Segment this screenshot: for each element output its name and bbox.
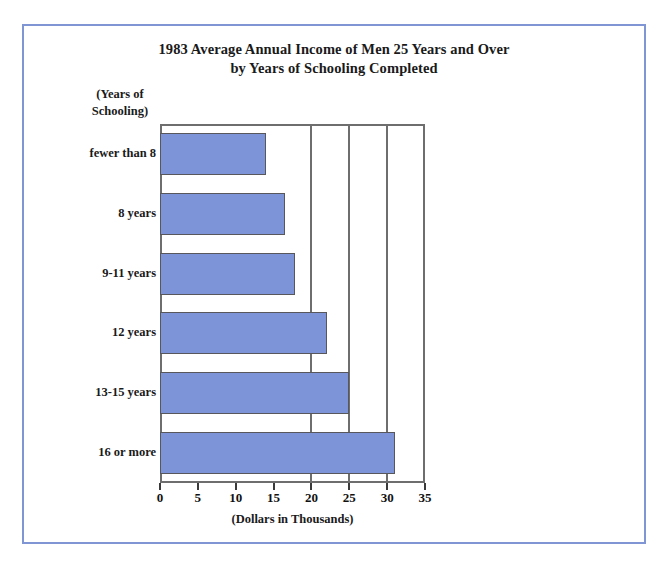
tick-mark [197, 483, 199, 490]
tick-label: 0 [140, 490, 180, 506]
tick-mark [424, 483, 426, 490]
tick-mark [310, 483, 312, 490]
bar-row [160, 432, 425, 474]
gridline [348, 124, 350, 483]
category-labels: fewer than 88 years9-11 years12 years13-… [24, 124, 156, 483]
chart-frame: 1983 Average Annual Income of Men 25 Yea… [22, 24, 646, 544]
y-axis-label: (Years of Schooling) [60, 86, 180, 120]
tick-label: 35 [405, 490, 445, 506]
tick-mark [235, 483, 237, 490]
tick-mark [273, 483, 275, 490]
bar [160, 312, 327, 354]
category-label: 9-11 years [26, 266, 156, 281]
chart-title-line-1: 1983 Average Annual Income of Men 25 Yea… [24, 40, 644, 59]
category-label: 13-15 years [26, 385, 156, 400]
bar-row [160, 253, 425, 295]
bar-row [160, 193, 425, 235]
tick-label: 30 [367, 490, 407, 506]
bar [160, 372, 349, 414]
tick-mark [386, 483, 388, 490]
tick-label: 5 [178, 490, 218, 506]
bar [160, 193, 285, 235]
category-label: 16 or more [26, 445, 156, 460]
bar [160, 432, 395, 474]
bar-row [160, 133, 425, 175]
tick-mark [159, 483, 161, 490]
category-label: fewer than 8 [26, 146, 156, 161]
chart-title: 1983 Average Annual Income of Men 25 Yea… [24, 40, 644, 78]
bar-row [160, 312, 425, 354]
category-label: 8 years [26, 206, 156, 221]
x-axis-label: (Dollars in Thousands) [160, 512, 425, 527]
tick-label: 10 [216, 490, 256, 506]
tick-mark [348, 483, 350, 490]
gridline [310, 124, 312, 483]
tick-label: 25 [329, 490, 369, 506]
plot-area [160, 124, 425, 483]
tick-label: 15 [254, 490, 294, 506]
chart-title-line-2: by Years of Schooling Completed [24, 59, 644, 78]
y-axis-label-line-1: (Years of [60, 86, 180, 103]
bar-row [160, 372, 425, 414]
bar [160, 253, 295, 295]
category-label: 12 years [26, 325, 156, 340]
bar [160, 133, 266, 175]
x-axis-tick-labels: 05101520253035 [160, 490, 429, 508]
tick-label: 20 [291, 490, 331, 506]
gridline [386, 124, 388, 483]
y-axis-label-line-2: Schooling) [60, 103, 180, 120]
